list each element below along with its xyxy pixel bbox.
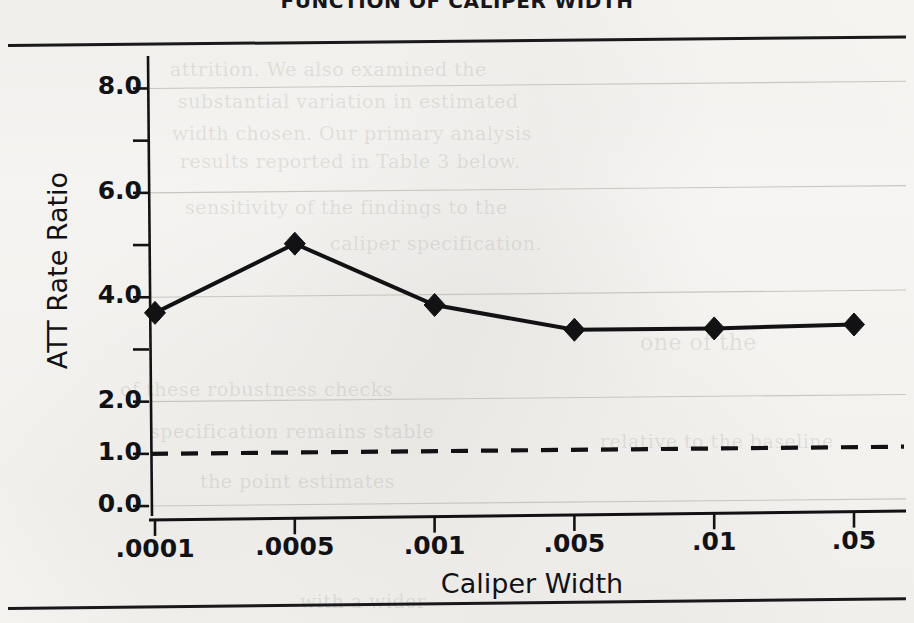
x-axis-tick-label: .05 — [789, 526, 914, 555]
reference-line-1 — [151, 447, 904, 454]
y-axis-line — [148, 56, 152, 516]
data-point-marker[interactable] — [844, 313, 865, 336]
x-axis-title: Caliper Width — [0, 568, 914, 599]
x-axis-tick-label: .0001 — [90, 534, 220, 563]
y-axis-tick-label: 8.0 — [32, 71, 142, 100]
axis-ticks-group — [133, 88, 854, 535]
data-series-group — [155, 244, 854, 330]
series-line — [155, 244, 854, 330]
gridline — [148, 81, 906, 88]
x-axis-tick-label: .0005 — [230, 532, 360, 561]
y-axis-title: ATT Rate Ratio — [42, 146, 73, 396]
gridline — [148, 186, 906, 193]
data-point-marker[interactable] — [704, 317, 725, 340]
data-point-marker[interactable] — [284, 232, 305, 255]
gridline — [148, 290, 906, 297]
x-axis-tick-label: .01 — [649, 527, 779, 556]
data-point-marker[interactable] — [424, 293, 445, 316]
data-point-marker[interactable] — [145, 301, 166, 324]
gridline — [148, 394, 906, 401]
gridlines-group — [148, 81, 906, 506]
x-axis-tick-label: .005 — [509, 529, 639, 558]
y-axis-tick-label: 0.0 — [32, 489, 142, 518]
data-markers-group — [145, 232, 865, 341]
x-axis-line — [149, 511, 906, 520]
y-axis-tick-label: 1.0 — [32, 437, 142, 466]
data-point-marker[interactable] — [564, 318, 585, 341]
reference-line-group — [151, 447, 904, 454]
x-axis-tick-label: .001 — [370, 531, 500, 560]
gridline — [148, 499, 906, 506]
